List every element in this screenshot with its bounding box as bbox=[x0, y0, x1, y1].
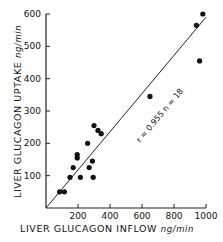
x-tick-label: 1000 bbox=[195, 211, 218, 221]
data-point bbox=[87, 165, 92, 170]
ticks: 1002003004005006002004006008001000 bbox=[24, 9, 218, 221]
scatter-chart: 1002003004005006002004006008001000 LIVER… bbox=[0, 0, 223, 242]
y-axis-label: LIVER GLUCAGON UPTAKE ng/min bbox=[12, 25, 23, 198]
data-point bbox=[91, 175, 96, 180]
data-point bbox=[78, 175, 83, 180]
data-point bbox=[194, 23, 199, 28]
data-point bbox=[197, 58, 202, 63]
x-axis-label: LIVER GLUCAGON INFLOW ng/min bbox=[20, 223, 194, 234]
y-tick-label: 500 bbox=[24, 41, 41, 51]
regression-annotation: r = 0.955 n = 18 bbox=[135, 87, 185, 145]
data-point bbox=[62, 189, 67, 194]
data-point bbox=[85, 141, 90, 146]
y-tick-label: 300 bbox=[24, 106, 41, 116]
data-point bbox=[90, 159, 95, 164]
data-point bbox=[57, 189, 62, 194]
data-point bbox=[147, 94, 152, 99]
data-point bbox=[67, 175, 72, 180]
y-tick-label: 100 bbox=[24, 171, 41, 181]
data-point bbox=[91, 123, 96, 128]
x-tick-label: 600 bbox=[133, 211, 150, 221]
data-point bbox=[99, 131, 104, 136]
y-tick-label: 400 bbox=[24, 74, 41, 84]
x-tick-label: 200 bbox=[69, 211, 86, 221]
x-tick-label: 400 bbox=[101, 211, 118, 221]
y-tick-label: 600 bbox=[24, 9, 41, 19]
x-tick-label: 800 bbox=[165, 211, 182, 221]
data-point bbox=[71, 165, 76, 170]
y-tick-label: 200 bbox=[24, 138, 41, 148]
data-points bbox=[57, 11, 205, 194]
data-point bbox=[75, 152, 80, 157]
data-point bbox=[200, 11, 205, 16]
